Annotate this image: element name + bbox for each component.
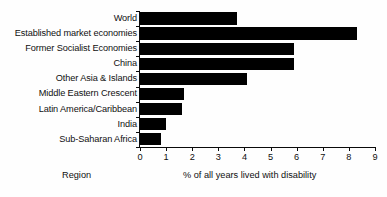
x-axis-tick bbox=[323, 147, 324, 151]
bar-category-label: Former Socialist Economies bbox=[25, 41, 137, 56]
bar-category-label: Middle Eastern Crescent bbox=[39, 86, 137, 101]
bar-category-label: Established market economies bbox=[15, 26, 137, 41]
y-axis-tick bbox=[136, 11, 140, 12]
bar-rows: WorldEstablished market economiesFormer … bbox=[0, 11, 387, 147]
bar-track bbox=[140, 118, 166, 130]
x-axis-tick bbox=[297, 147, 298, 151]
bar-row: Other Asia & Islands bbox=[0, 71, 387, 86]
x-axis-label: % of all years lived with disability bbox=[183, 170, 316, 180]
x-axis-tick-label: 6 bbox=[287, 152, 307, 162]
x-axis-tick-label: 9 bbox=[365, 152, 385, 162]
y-axis-tick bbox=[136, 71, 140, 72]
x-axis-tick-label: 7 bbox=[313, 152, 333, 162]
bar-row: World bbox=[0, 11, 387, 26]
x-axis-tick bbox=[192, 147, 193, 151]
y-axis-tick bbox=[136, 41, 140, 42]
x-axis-tick-label: 3 bbox=[208, 152, 228, 162]
x-axis-tick bbox=[375, 147, 376, 151]
x-axis-tick-label: 4 bbox=[234, 152, 254, 162]
bar-track bbox=[140, 12, 237, 24]
bar-track bbox=[140, 88, 184, 100]
x-axis-tick bbox=[218, 147, 219, 151]
bar-row: Former Socialist Economies bbox=[0, 41, 387, 56]
y-axis-tick bbox=[136, 132, 140, 133]
bar-row: Middle Eastern Crescent bbox=[0, 86, 387, 101]
bar bbox=[140, 43, 294, 55]
bar-category-label: Sub-Saharan Africa bbox=[59, 132, 137, 147]
bar-row: China bbox=[0, 56, 387, 71]
bar-track bbox=[140, 133, 161, 145]
x-axis-tick-label: 5 bbox=[261, 152, 281, 162]
bar-track bbox=[140, 103, 182, 115]
x-axis-tick bbox=[349, 147, 350, 151]
y-axis-line bbox=[139, 11, 140, 147]
bar bbox=[140, 58, 294, 70]
bar-track bbox=[140, 43, 294, 55]
bar bbox=[140, 88, 184, 100]
y-axis-tick bbox=[136, 26, 140, 27]
plot-area: WorldEstablished market economiesFormer … bbox=[0, 0, 387, 197]
y-axis-tick bbox=[136, 117, 140, 118]
x-axis-tick bbox=[244, 147, 245, 151]
bar bbox=[140, 133, 161, 145]
bar-category-label: Other Asia & Islands bbox=[56, 71, 137, 86]
x-axis-tick bbox=[271, 147, 272, 151]
x-axis-tick bbox=[140, 147, 141, 151]
x-axis-tick-label: 8 bbox=[339, 152, 359, 162]
y-axis-tick bbox=[136, 56, 140, 57]
bar bbox=[140, 103, 182, 115]
bar-category-label: China bbox=[113, 56, 137, 71]
x-axis-tick-label: 1 bbox=[156, 152, 176, 162]
bar-category-label: India bbox=[118, 117, 137, 132]
x-axis-tick-label: 2 bbox=[182, 152, 202, 162]
bar-row: Latin America/Caribbean bbox=[0, 102, 387, 117]
x-axis-line bbox=[139, 147, 375, 148]
bar-track bbox=[140, 27, 357, 39]
bar-row: Sub-Saharan Africa bbox=[0, 132, 387, 147]
bar-track bbox=[140, 73, 247, 85]
bar bbox=[140, 12, 237, 24]
x-axis-tick-label: 0 bbox=[130, 152, 150, 162]
bar-row: India bbox=[0, 117, 387, 132]
y-axis-label: Region bbox=[62, 170, 91, 180]
bar bbox=[140, 73, 247, 85]
y-axis-tick bbox=[136, 102, 140, 103]
y-axis-tick bbox=[136, 87, 140, 88]
bar-track bbox=[140, 58, 294, 70]
bar bbox=[140, 118, 166, 130]
bar-chart: WorldEstablished market economiesFormer … bbox=[0, 0, 387, 197]
bar-category-label: Latin America/Caribbean bbox=[39, 102, 137, 117]
bar-category-label: World bbox=[114, 11, 137, 26]
bar bbox=[140, 27, 357, 39]
bar-row: Established market economies bbox=[0, 26, 387, 41]
x-axis-tick bbox=[166, 147, 167, 151]
